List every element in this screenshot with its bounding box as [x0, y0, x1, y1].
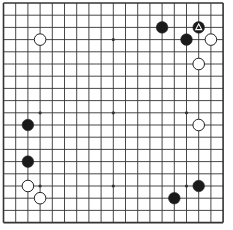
white-stone[interactable] [34, 192, 46, 204]
black-stone[interactable] [22, 119, 34, 131]
black-stone[interactable] [169, 192, 181, 204]
black-stone[interactable] [193, 180, 205, 192]
white-stone[interactable] [205, 34, 217, 46]
white-stone[interactable] [193, 58, 205, 70]
black-stone[interactable] [193, 22, 205, 34]
white-stone[interactable] [22, 180, 34, 192]
white-stone-disc [205, 34, 217, 46]
star-point [39, 184, 42, 187]
white-stone[interactable] [193, 119, 205, 131]
star-point [112, 38, 115, 41]
black-stone-disc [22, 119, 34, 131]
star-point [112, 111, 115, 114]
black-stone[interactable] [22, 156, 34, 168]
star-point [112, 184, 115, 187]
black-stone-disc [156, 22, 168, 34]
black-stone[interactable] [156, 22, 168, 34]
black-stone-disc [22, 156, 34, 168]
star-point [185, 111, 188, 114]
star-point [39, 111, 42, 114]
white-stone-disc [34, 192, 46, 204]
black-stone-disc [169, 192, 181, 204]
star-point [185, 184, 188, 187]
white-stone[interactable] [34, 34, 46, 46]
black-stone-disc [181, 34, 193, 46]
go-board[interactable] [0, 0, 233, 230]
white-stone-disc [193, 119, 205, 131]
white-stone-disc [193, 58, 205, 70]
black-stone-disc [193, 180, 205, 192]
black-stone[interactable] [181, 34, 193, 46]
white-stone-disc [22, 180, 34, 192]
white-stone-disc [34, 34, 46, 46]
